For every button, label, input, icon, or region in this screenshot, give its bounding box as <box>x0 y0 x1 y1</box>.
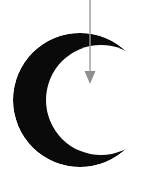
crescent-moon <box>13 33 147 167</box>
figure-svg: crescent-with-downward-arrow <box>0 0 159 182</box>
figure-canvas: crescent-with-downward-arrow <box>0 0 159 182</box>
